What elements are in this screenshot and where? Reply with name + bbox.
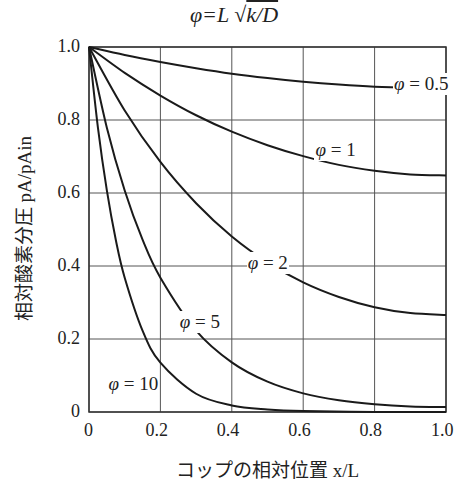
y-tick-label: 0.8 bbox=[58, 109, 81, 130]
x-axis-label: コップの相対位置 x/L bbox=[89, 455, 446, 482]
curve-label: φ = 10 bbox=[107, 373, 159, 395]
curve-label: φ = 0.5 bbox=[393, 73, 449, 95]
x-tick-label: 1.0 bbox=[431, 420, 454, 441]
x-tick-label: 0.2 bbox=[145, 420, 168, 441]
series-line bbox=[89, 47, 446, 412]
series-line bbox=[89, 47, 446, 407]
x-axis-label-text: コップの相対位置 x/L bbox=[176, 460, 359, 481]
y-tick-label: 0.2 bbox=[58, 328, 81, 349]
y-axis-label: 相対酸素分圧 pA/pAin bbox=[9, 89, 36, 369]
x-tick-label: 0.4 bbox=[217, 420, 240, 441]
x-tick-label: 0 bbox=[84, 420, 93, 441]
y-tick-label: 0 bbox=[71, 401, 80, 422]
x-tick-label: 0.8 bbox=[360, 420, 383, 441]
x-tick-label: 0.6 bbox=[288, 420, 311, 441]
curve-label: φ = 1 bbox=[314, 139, 356, 161]
plot-frame bbox=[89, 47, 446, 412]
y-tick-label: 0.4 bbox=[58, 255, 81, 276]
series-line bbox=[89, 47, 446, 175]
curve-label: φ = 5 bbox=[179, 311, 221, 333]
y-tick-label: 1.0 bbox=[58, 36, 81, 57]
y-tick-label: 0.6 bbox=[58, 182, 81, 203]
y-axis-label-text: 相対酸素分圧 pA/pAin bbox=[14, 136, 35, 321]
curve-label: φ = 2 bbox=[247, 252, 289, 274]
